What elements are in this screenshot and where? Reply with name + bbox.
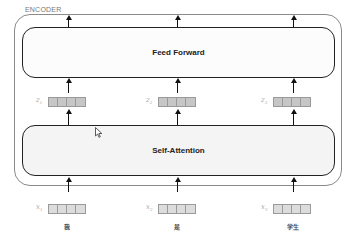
output-arrow-3	[293, 18, 294, 27]
z-label-2: z2	[146, 96, 152, 105]
x-label-3: x3	[261, 203, 268, 212]
input-word-1: 我	[64, 222, 70, 231]
input-word-2: 是	[174, 222, 180, 231]
ff-input-arrow-2	[177, 81, 178, 93]
feed-forward-layer: Feed Forward	[22, 27, 335, 78]
self-attention-layer: Self-Attention	[22, 125, 335, 176]
input-word-3: 学生	[287, 222, 299, 231]
output-arrow-2	[177, 18, 178, 27]
x-label-2: x2	[146, 203, 153, 212]
output-arrow-1	[68, 18, 69, 27]
sa-output-arrow-1	[68, 112, 69, 125]
self-attention-label: Self-Attention	[152, 146, 204, 155]
input-arrow-1	[68, 180, 69, 192]
x-vector-2	[158, 204, 196, 214]
x-vector-1	[48, 204, 86, 214]
z-label-3: z3	[261, 96, 267, 105]
z-vector-1	[48, 97, 86, 107]
z-label-1: z1	[36, 96, 42, 105]
sa-output-arrow-3	[293, 112, 294, 125]
x-vector-3	[273, 204, 311, 214]
ff-input-arrow-1	[68, 81, 69, 93]
mouse-cursor-icon	[95, 127, 103, 138]
x-label-1: x1	[36, 203, 43, 212]
z-vector-2	[158, 97, 196, 107]
z-vector-3	[273, 97, 311, 107]
feed-forward-label: Feed Forward	[152, 48, 204, 57]
input-arrow-3	[293, 180, 294, 192]
input-arrow-2	[177, 180, 178, 192]
encoder-label: ENCODER	[24, 6, 62, 13]
sa-output-arrow-2	[177, 112, 178, 125]
ff-input-arrow-3	[293, 81, 294, 93]
